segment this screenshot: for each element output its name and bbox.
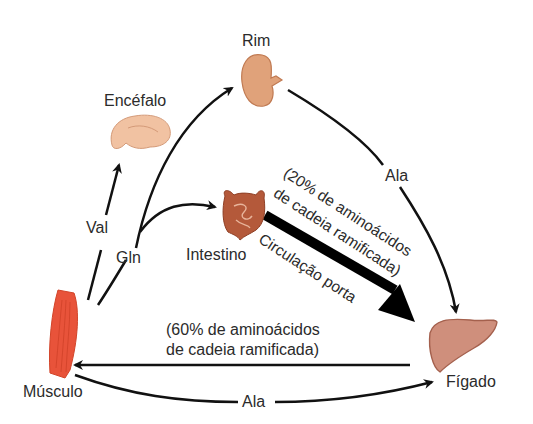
- label-figado: Fígado: [446, 374, 496, 390]
- arrow-ala-musculo-figado-left: [75, 375, 238, 402]
- arrow-gln-to-rim: [136, 88, 232, 248]
- muscle-icon: [49, 290, 77, 378]
- brain-icon: [111, 115, 170, 148]
- label-figado-musculo-line2: de cadeia ramificada): [166, 342, 319, 358]
- label-encefalo: Encéfalo: [104, 93, 166, 109]
- arrow-portal-head: [378, 284, 415, 322]
- label-ala-rim-figado: Ala: [385, 168, 408, 184]
- arrow-val-head: [106, 165, 119, 215]
- arrow-ala-rim-figado: [288, 90, 383, 165]
- label-musculo: Músculo: [23, 384, 83, 400]
- diagram-canvas: [0, 0, 533, 424]
- arrow-gln-to-intestino: [140, 204, 215, 232]
- arrow-gln-lower: [98, 260, 126, 305]
- label-gln: Gln: [116, 250, 141, 266]
- label-intestino: Intestino: [186, 247, 246, 263]
- kidney-icon: [242, 55, 282, 107]
- intestine-icon: [223, 191, 265, 240]
- label-rim: Rim: [242, 33, 270, 49]
- arrow-ala-musculo-figado-right: [275, 382, 432, 402]
- label-ala-musculo-figado: Ala: [242, 394, 265, 410]
- label-val: Val: [86, 220, 108, 236]
- arrow-val: [88, 250, 101, 300]
- label-figado-musculo-line1: (60% de aminoácidos: [166, 322, 320, 338]
- liver-icon: [430, 319, 497, 372]
